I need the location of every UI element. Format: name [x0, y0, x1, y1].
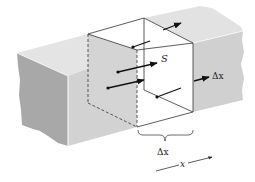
surface-s-label: S [161, 53, 168, 64]
delta-x-brace [138, 130, 193, 141]
x-axis-label: x [180, 159, 185, 169]
slab-diagram: S Δx Δx x [0, 0, 255, 182]
delta-x-brace-label: Δx [157, 147, 169, 157]
thickness-right-label: Δx [212, 71, 224, 81]
